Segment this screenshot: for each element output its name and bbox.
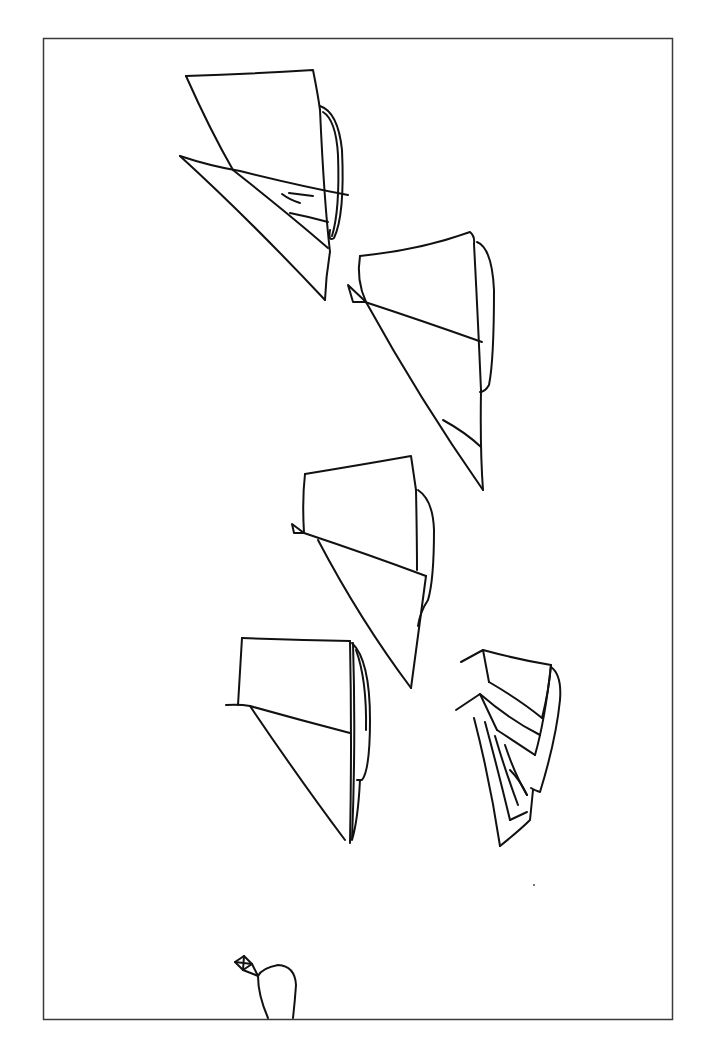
kite-figure: [235, 956, 296, 1018]
sailboat-2: [348, 232, 494, 490]
sailboat-5: [456, 650, 560, 846]
sailboat-4: [226, 638, 370, 843]
drawing-canvas: [0, 0, 718, 1055]
speck-mark: [533, 884, 535, 886]
border-frame: [44, 39, 673, 1020]
sailboat-1: [180, 70, 348, 300]
sailboat-3: [292, 456, 434, 688]
